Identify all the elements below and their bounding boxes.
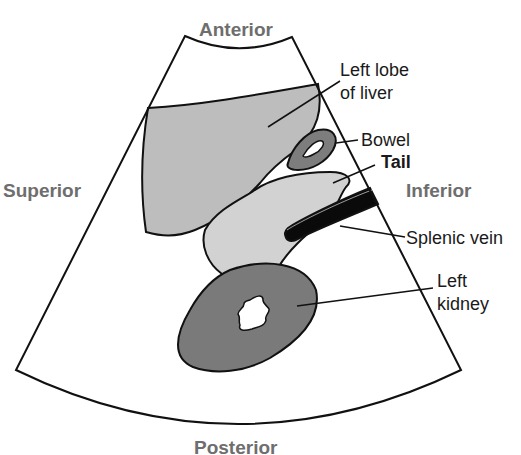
- leader-bowel: [336, 140, 358, 143]
- label-inferior: Inferior: [406, 181, 471, 200]
- label-tail: Tail: [381, 151, 411, 174]
- label-left-kidney: Left kidney: [437, 270, 489, 316]
- label-posterior: Posterior: [194, 438, 277, 455]
- leader-splenic-vein: [340, 226, 405, 237]
- label-left-lobe-liver: Left lobe of liver: [340, 59, 409, 105]
- label-splenic-vein: Splenic vein: [406, 227, 503, 250]
- label-liver-line2: of liver: [340, 82, 409, 105]
- label-kidney-line2: kidney: [437, 293, 489, 316]
- label-liver-line1: Left lobe: [340, 59, 409, 82]
- label-bowel: Bowel: [361, 129, 410, 152]
- label-superior: Superior: [3, 181, 81, 200]
- label-anterior: Anterior: [199, 20, 273, 39]
- label-kidney-line1: Left: [437, 270, 489, 293]
